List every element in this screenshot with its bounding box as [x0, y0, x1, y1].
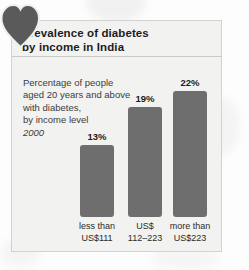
bar-category-label: more than US$223	[160, 221, 220, 244]
bar	[173, 91, 207, 217]
chart-header: Prevalence of diabetes by income in Indi…	[12, 21, 221, 57]
page-title: Prevalence of diabetes by income in Indi…	[22, 26, 213, 54]
bar-value-label: 13%	[72, 131, 122, 142]
bar-group: 19% US$ 112–223	[128, 107, 162, 217]
bar-group: 13% less than US$111	[80, 145, 114, 217]
heart-icon	[0, 2, 40, 48]
bar-value-label: 19%	[120, 93, 170, 104]
bar-value-label: 22%	[165, 77, 215, 88]
paper-smudge	[86, 0, 146, 22]
bar-chart-plot: 13% less than US$111 19% US$ 112–223 22%…	[12, 57, 221, 251]
chart-panel: Prevalence of diabetes by income in Indi…	[11, 20, 222, 252]
bar	[80, 145, 114, 217]
bar	[128, 107, 162, 217]
bar-group: 22% more than US$223	[173, 91, 207, 217]
